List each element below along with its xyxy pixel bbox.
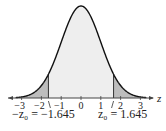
tick-label: 0 bbox=[79, 100, 84, 111]
axis-label-z: z bbox=[156, 92, 162, 104]
left-critical-label: −z₀ = −1.645 bbox=[12, 107, 75, 121]
area-fills bbox=[16, 6, 147, 108]
right-critical-label: z₀ = 1.645 bbox=[98, 107, 147, 121]
normal-distribution-chart: −3−2−10123 z −z₀ = −1.645 z₀ = 1.645 bbox=[0, 0, 166, 131]
axis-arrow-left bbox=[8, 96, 13, 100]
axis-arrow-right bbox=[149, 96, 154, 100]
